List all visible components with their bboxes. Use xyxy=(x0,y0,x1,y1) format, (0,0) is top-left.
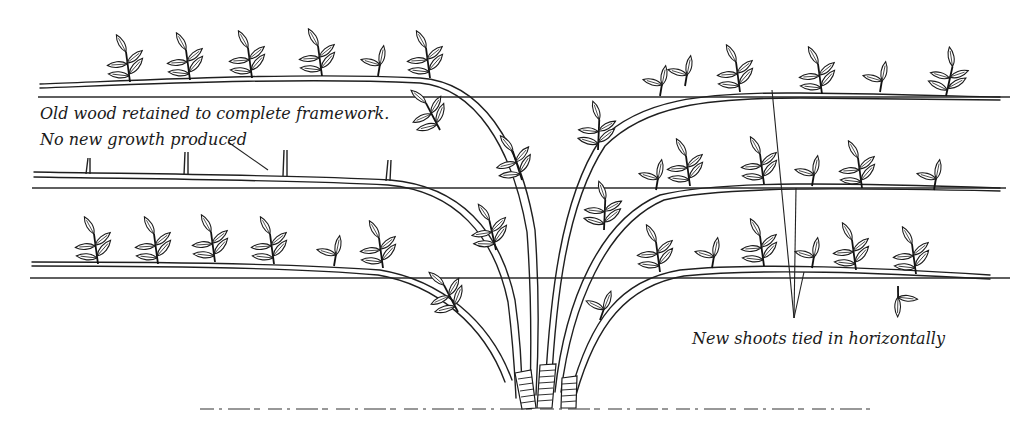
old-wood-spurs xyxy=(86,150,391,181)
old-wood-label-line2: No new growth produced xyxy=(40,130,247,150)
leaves-bottom-left xyxy=(75,201,512,321)
old-wood-label-line1: Old wood retained to complete framework. xyxy=(40,104,389,124)
cane-bases xyxy=(515,364,577,409)
leaves-right xyxy=(575,43,977,322)
annotation-pointers xyxy=(228,90,804,318)
cane-training-illustration xyxy=(0,0,1030,440)
new-shoots-label: New shoots tied in horizontally xyxy=(692,329,945,349)
diagram-canvas: Old wood retained to complete framework.… xyxy=(0,0,1030,440)
